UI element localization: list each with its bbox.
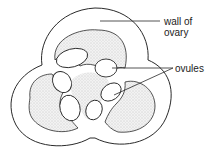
label-wall-line1: wall of: [164, 16, 192, 27]
label-ovules: ovules: [175, 63, 204, 74]
label-wall-line2: ovary: [164, 27, 192, 38]
label-wall-of-ovary: wall of ovary: [164, 16, 192, 38]
